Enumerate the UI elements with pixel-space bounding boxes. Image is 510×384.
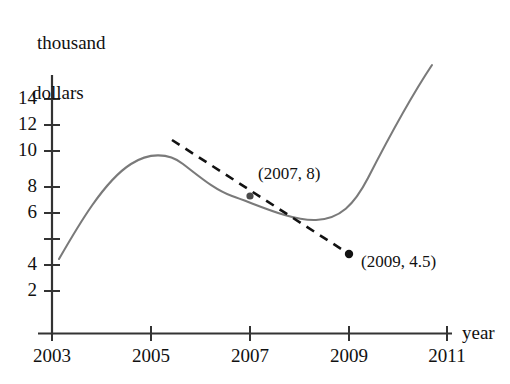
y-tick-label-2: 2: [7, 279, 37, 301]
series-value-curve: [59, 65, 432, 259]
x-tick-label-2003: 2003: [24, 345, 80, 367]
x-tick-label-2011: 2011: [419, 345, 475, 367]
series-secant-line: [172, 140, 349, 254]
label-point-2007-8: (2007, 8): [258, 164, 320, 184]
y-tick-label-6: 6: [7, 201, 37, 223]
x-tick-label-2009: 2009: [321, 345, 377, 367]
y-tick-label-8: 8: [7, 175, 37, 197]
y-tick-label-4: 4: [7, 253, 37, 275]
y-tick-label-14: 14: [7, 87, 37, 109]
marker-point-2009-4point5: [345, 250, 353, 258]
y-axis-label-line1: thousand: [37, 32, 106, 53]
x-tick-label-2005: 2005: [123, 345, 179, 367]
marker-point-2007-8: [246, 192, 253, 199]
y-tick-label-10: 10: [7, 139, 37, 161]
x-tick-label-2007: 2007: [222, 345, 278, 367]
label-point-2009-4point5: (2009, 4.5): [361, 252, 436, 272]
x-axis-label: year: [462, 320, 495, 345]
y-tick-label-12: 12: [7, 113, 37, 135]
chart-figure: thousand dollars year 14 12 10 8 6 4 2 2…: [0, 0, 510, 384]
